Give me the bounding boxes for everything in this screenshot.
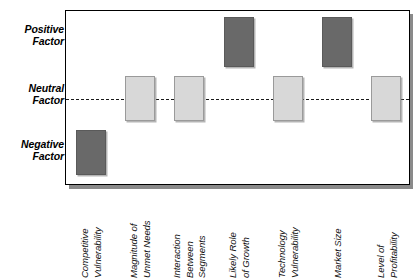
x-axis-label-0: Competitive Vulnerability xyxy=(79,194,104,278)
bar-positive-5 xyxy=(322,17,352,68)
bar-neutral-2 xyxy=(174,76,204,121)
x-axis-label-1: Magnitude of Unmet Needs xyxy=(128,194,153,278)
bar-neutral-4 xyxy=(273,76,303,121)
x-axis-label-2: Interaction Between Segments xyxy=(171,194,209,278)
x-axis-label-5: Market Size xyxy=(332,194,345,278)
bar-positive-3 xyxy=(224,17,254,68)
x-axis-label-6: Level of Profitability xyxy=(375,194,400,278)
factor-assessment-chart: Positive Factor Neutral Factor Negative … xyxy=(0,0,418,278)
x-axis-label-3: Likely Role of Growth xyxy=(227,194,252,278)
plot-area xyxy=(65,10,410,185)
y-axis-label-negative-factor: Negative Factor xyxy=(0,138,64,162)
bar-negative-0 xyxy=(76,130,106,175)
y-axis-label-neutral-factor: Neutral Factor xyxy=(0,82,64,106)
neutral-reference-line xyxy=(66,99,409,100)
bar-neutral-1 xyxy=(125,76,155,121)
bar-neutral-6 xyxy=(371,76,401,121)
x-axis-label-4: Technology Vulnerability xyxy=(276,194,301,278)
y-axis-label-positive-factor: Positive Factor xyxy=(0,23,64,47)
